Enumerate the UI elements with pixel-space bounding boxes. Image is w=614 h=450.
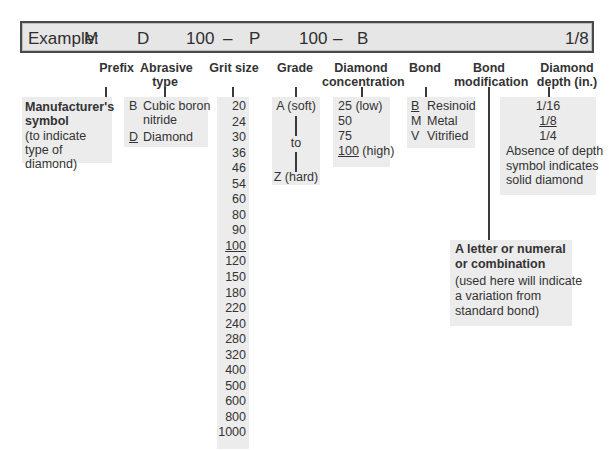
concentration-item: 75 [338,129,352,145]
abrasive-label-cbn: Cubic boron nitride [143,99,210,127]
abrasive-connector [164,87,166,97]
grade-middle: to [272,136,320,152]
example-bond: B [357,29,368,49]
grit-connector [232,87,234,97]
grit-item: 220 [216,301,246,317]
grit-title: Grit size [206,61,262,75]
concentration-item-selected: 100 (high) [338,144,394,160]
grade-bottom: Z (hard) [272,170,320,186]
bond-code-b: B [411,99,419,115]
depth-value-selected: 1/8 [500,114,596,130]
prefix-note: (to indicate type of diamond) [25,129,111,171]
bond-label-metal: Metal [427,114,458,130]
grit-item: 400 [216,363,246,379]
depth-title-line1: Diamond [532,61,602,75]
bond-modification-connector [488,87,490,240]
example-abrasive: D [137,29,149,49]
abrasive-title-line1: Abrasive [140,61,190,75]
prefix-heading: Manufacturer's symbol [25,100,111,128]
example-grade: P [249,29,260,49]
depth-title: Diamond depth (in.) [532,61,602,89]
example-dash-1: – [223,29,232,49]
bond-modification-heading: A letter or numeral or combination [455,242,566,272]
abrasive-code-d: D [129,130,138,146]
abrasive-label-diamond: Diamond [143,130,193,146]
concentration-title-line1: Diamond [322,61,400,75]
prefix-title: Prefix [78,61,134,75]
grit-item: 46 [216,161,246,177]
example-dash-2: – [333,29,342,49]
example-grit: 100 [186,29,214,49]
abrasive-title: Abrasive type [140,61,190,89]
concentration-note: (high) [362,144,394,158]
bond-modification-heading-line2: or combination [455,257,566,272]
concentration-title: Diamond concentration [322,61,400,89]
grit-item: 320 [216,348,246,364]
bond-modification-note-line3: standard bond) [455,304,582,319]
abrasive-code-b: B [129,99,137,115]
prefix-connector [105,87,107,97]
abrasive-label-cbn-line1: Cubic boron [143,99,210,113]
grade-title: Grade [270,61,320,75]
grit-item: 150 [216,270,246,286]
grade-line-lower [295,152,297,172]
grit-item: 24 [216,115,246,131]
grit-item: 120 [216,254,246,270]
bond-title: Bond [405,61,445,75]
bond-code-v: V [411,129,419,145]
concentration-connector [361,87,363,97]
depth-note-line1: Absence of depth [506,144,603,159]
grit-item: 240 [216,317,246,333]
grit-item: 30 [216,130,246,146]
grade-connector [295,87,297,97]
bond-modification-note: (used here will indicate a variation fro… [455,274,582,319]
grit-item: 20 [216,99,246,115]
grit-item: 800 [216,410,246,426]
depth-note-line2: symbol indicates [506,159,603,174]
bond-connector [425,87,427,97]
bond-label-resinoid: Resinoid [427,99,476,115]
bond-modification-title: Bond modification [454,61,524,89]
depth-connector [548,87,550,97]
grit-item: 500 [216,379,246,395]
grade-line-upper [295,116,297,136]
depth-title-line2: depth (in.) [532,75,602,89]
grit-item: 80 [216,208,246,224]
grit-list: 20 24 30 36 46 54 60 80 90 100 120 150 1… [216,99,246,441]
abrasive-label-cbn-line2: nitride [143,113,210,127]
concentration-value: 100 [338,144,359,158]
example-concentration: 100 [299,29,327,49]
depth-note: Absence of depth symbol indicates solid … [506,144,603,188]
example-prefix: M [84,29,98,49]
grit-item: 60 [216,192,246,208]
depth-value: 1/16 [500,99,596,115]
grit-item: 54 [216,177,246,193]
bond-modification-heading-line1: A letter or numeral [455,242,566,257]
grit-item: 280 [216,332,246,348]
bond-modification-title-line1: Bond [454,61,524,75]
grit-item: 36 [216,146,246,162]
concentration-item: 25 (low) [338,99,382,115]
concentration-item: 50 [338,114,352,130]
grit-item: 90 [216,223,246,239]
bond-modification-note-line1: (used here will indicate [455,274,582,289]
bond-label-vitrified: Vitrified [427,129,468,145]
grit-item: 1000 [216,425,246,441]
grit-item: 180 [216,286,246,302]
depth-note-line3: solid diamond [506,173,603,188]
bond-modification-note-line2: a variation from [455,289,582,304]
grit-item: 600 [216,394,246,410]
depth-value: 1/4 [500,129,596,145]
example-depth: 1/8 [565,29,589,49]
bond-code-m: M [411,114,421,130]
concentration-value: 25 [338,99,352,113]
grit-item-selected: 100 [216,239,246,255]
concentration-note: (low) [355,99,382,113]
grade-top: A (soft) [272,99,320,115]
